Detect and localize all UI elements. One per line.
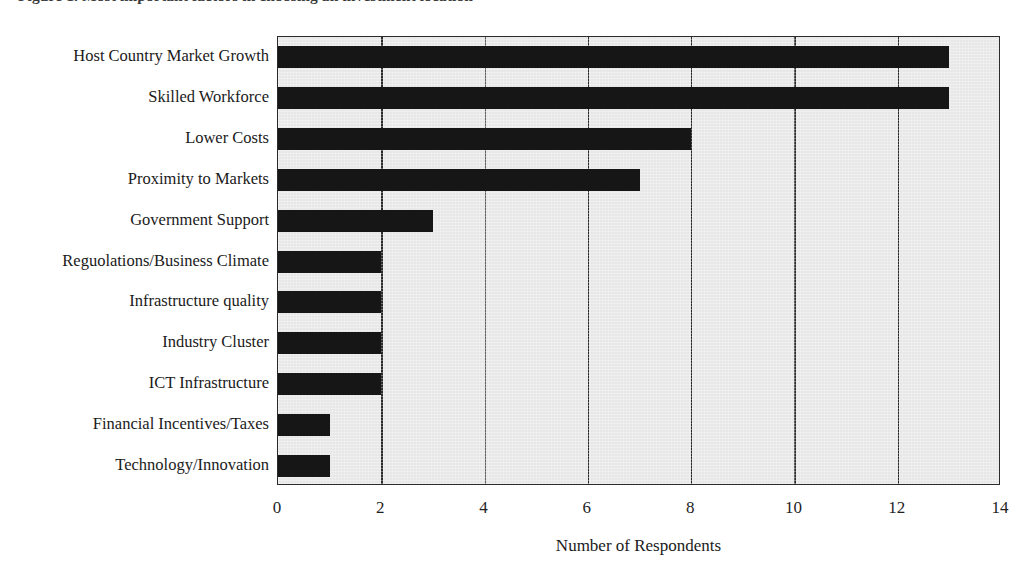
category-axis-label: Government Support: [130, 210, 269, 230]
category-axis-label: Technology/Innovation: [115, 455, 269, 475]
category-axis-label: Infrastructure quality: [129, 291, 269, 311]
bar: [278, 291, 381, 313]
category-axis-label: Lower Costs: [185, 128, 269, 148]
bar: [278, 46, 949, 68]
bar: [278, 128, 691, 150]
bar: [278, 455, 330, 477]
x-axis-tick-label: 2: [376, 498, 385, 518]
category-axis-label: Financial Incentives/Taxes: [93, 414, 269, 434]
x-axis-tick-label: 0: [273, 498, 282, 518]
x-axis-tick-label: 6: [583, 498, 592, 518]
x-axis-tick-label: 4: [479, 498, 488, 518]
bar: [278, 169, 640, 191]
bar: [278, 87, 949, 109]
x-axis-tick-label: 10: [785, 498, 802, 518]
x-axis-tick-label: 12: [888, 498, 905, 518]
bar-chart-figure: Host Country Market GrowthSkilled Workfo…: [0, 0, 1029, 577]
bar: [278, 414, 330, 436]
category-axis-label: ICT Infrastructure: [149, 373, 269, 393]
category-axis-label: Host Country Market Growth: [73, 46, 269, 66]
bar: [278, 373, 381, 395]
bar: [278, 210, 433, 232]
x-axis-tick-label: 14: [992, 498, 1009, 518]
x-axis-tick-label: 8: [686, 498, 695, 518]
category-axis: Host Country Market GrowthSkilled Workfo…: [0, 0, 269, 577]
category-axis-label: Proximity to Markets: [128, 169, 269, 189]
bar: [278, 332, 381, 354]
plot-area: [277, 36, 1000, 485]
category-axis-label: Skilled Workforce: [148, 87, 269, 107]
bar: [278, 251, 381, 273]
category-axis-label: Reguolations/Business Climate: [62, 251, 269, 271]
x-axis-title: Number of Respondents: [277, 536, 1000, 556]
category-axis-label: Industry Cluster: [162, 332, 269, 352]
